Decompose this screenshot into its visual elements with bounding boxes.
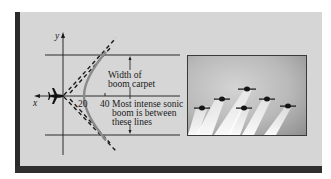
arrow-down-icon [129,130,132,134]
jet-icon [238,87,256,92]
y-axis-label: y [55,31,59,41]
jets-formation-photo [187,55,307,136]
airplane-icon [48,88,64,104]
width-label-line2: boom carpet [108,79,155,89]
smoke-trail [264,106,292,135]
x-axis-label: x [33,98,37,108]
jet-icon [280,104,296,109]
y-axis-arrow-icon [61,32,65,38]
jet-icon [259,97,275,102]
tick-label-20: 20 [78,99,88,109]
intense-label-line3: these lines [112,117,152,127]
tick-label-40: 40 [100,99,110,109]
arrow-up-icon [129,56,132,60]
jets-photo-illustration [188,56,306,135]
